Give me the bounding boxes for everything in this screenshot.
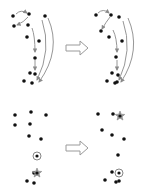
point-dot [120,39,124,43]
point-dot [110,71,114,75]
point-dot [115,80,119,84]
permutation-arrow [98,11,109,14]
permutation-arrow [32,28,35,52]
permutation-arrow [102,17,110,29]
permutation-arrow [113,30,117,52]
point-dot [110,133,114,137]
point-dot [110,170,114,174]
permutation-arrow [37,20,46,80]
top-transform-arrow-icon [66,41,88,55]
top-right-dots [94,13,124,85]
point-dot [103,178,107,182]
point-dot [32,181,36,185]
point-dot [122,137,126,141]
point-dot [37,39,41,43]
bottom-left-dots [13,110,48,185]
point-dot [28,71,32,75]
point-dot [11,14,15,18]
point-dot [22,79,26,83]
point-dot [35,154,38,157]
point-dot [117,179,121,183]
top-left-permutation-arrows [16,11,53,82]
point-dot [100,128,104,132]
point-dot [33,72,37,76]
point-dot [96,112,100,116]
top-right-permutation-arrows [98,11,134,83]
bottom-transform-arrow-icon [66,141,88,155]
point-dot [29,110,33,114]
diagram-canvas [0,0,147,194]
permutation-arrow [16,11,27,14]
bottom-right-markers [115,111,125,177]
point-dot [117,171,120,174]
point-dot [25,179,29,183]
point-dot [26,23,30,27]
bottom-right-dots [96,112,126,184]
point-dot [44,113,48,117]
point-dot [94,13,98,17]
point-dot [27,12,31,16]
point-dot [13,113,17,117]
point-dot [118,114,121,117]
point-dot [39,137,43,141]
permutation-arrow [119,21,127,80]
point-dot [28,122,32,126]
point-dot [35,171,38,174]
point-dot [30,81,34,85]
point-dot [99,29,103,33]
point-dot [25,35,29,39]
point-dot [114,55,118,59]
point-dot [117,15,121,19]
permutation-arrow [17,17,28,25]
top-left-dots [11,12,47,85]
point-dot [116,73,120,77]
point-dot [116,153,120,157]
point-dot [105,79,109,83]
point-dot [107,35,111,39]
point-dot [27,134,31,138]
point-dot [13,123,17,127]
point-dot [33,56,37,60]
point-dot [109,13,113,17]
point-dot [12,24,16,28]
point-dot [111,112,115,116]
point-dot [43,14,47,18]
